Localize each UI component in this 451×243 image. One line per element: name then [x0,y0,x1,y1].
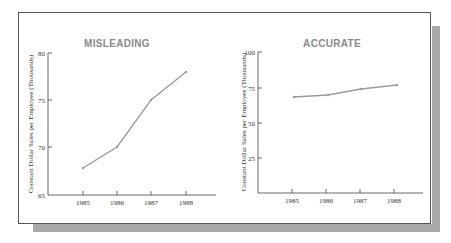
y-axis-label: Constant Dollar Sales per Employee (Thou… [240,52,248,191]
y-tick-label: 70 [38,144,46,152]
y-ticks: 80 75 70 65 [38,50,52,200]
x-tick-label: 1985 [285,197,300,205]
x-tick-label: 1985 [76,199,91,207]
y-tick-label: 25 [248,155,256,163]
y-tick-label: 50 [248,120,256,128]
x-tick-label: 1988 [179,199,194,207]
x-tick-label: 1987 [353,197,368,205]
x-ticks: 1985 1986 1987 1988 [76,191,194,207]
data-line [83,72,186,168]
data-line [294,85,397,97]
y-tick-label: 75 [38,97,46,105]
chart-title: ACCURATE [303,38,361,49]
y-tick-label: 80 [38,50,46,58]
x-tick-label: 1986 [110,199,125,207]
data-points [82,71,187,169]
chart-misleading: MISLEADING 80 75 70 65 1985 1986 1987 19… [27,38,216,207]
x-tick-label: 1988 [387,197,402,205]
y-axis-label: Constant Dollar Sales per Employee (Thou… [27,54,35,193]
charts-canvas: MISLEADING 80 75 70 65 1985 1986 1987 19… [0,0,451,243]
chart-accurate: ACCURATE 100 75 50 25 1985 1986 1987 198… [240,38,423,205]
y-tick-label: 75 [248,85,256,93]
x-tick-label: 1986 [319,197,334,205]
chart-title: MISLEADING [84,38,150,49]
x-tick-label: 1987 [144,199,159,207]
y-tick-label: 65 [38,192,46,200]
x-ticks: 1985 1986 1987 1988 [285,189,402,205]
